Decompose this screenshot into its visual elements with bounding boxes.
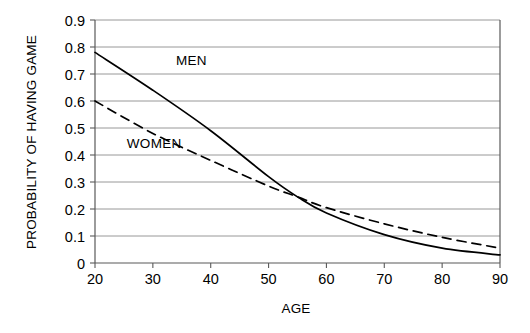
y-tick-label-0.9: 0.9	[65, 13, 85, 29]
x-tick-label-70: 70	[376, 271, 392, 287]
y-tick-label-0.5: 0.5	[65, 121, 85, 137]
y-tick-label-0.2: 0.2	[65, 202, 85, 218]
chart-figure: 2030405060708090 00.10.20.30.40.50.60.70…	[0, 0, 530, 333]
x-tick-label-30: 30	[145, 271, 161, 287]
y-tick-label-0.1: 0.1	[65, 229, 85, 245]
y-tick-label-0.6: 0.6	[65, 94, 85, 110]
series-label-women: WOMEN	[127, 136, 182, 151]
y-tick-label-0: 0	[77, 256, 85, 272]
probability-line-chart: 2030405060708090 00.10.20.30.40.50.60.70…	[0, 0, 530, 333]
x-tick-label-80: 80	[434, 271, 450, 287]
x-tick-label-60: 60	[318, 271, 334, 287]
y-axis-title: PROBABILITY OF HAVING GAME	[24, 35, 39, 249]
y-tick-label-0.7: 0.7	[65, 67, 85, 83]
x-tick-label-20: 20	[87, 271, 103, 287]
y-tick-label-0.8: 0.8	[65, 40, 85, 56]
x-tick-label-90: 90	[492, 271, 508, 287]
x-tick-label-50: 50	[261, 271, 277, 287]
series-label-men: MEN	[176, 53, 207, 68]
y-tick-label-0.3: 0.3	[65, 175, 85, 191]
y-tick-label-0.4: 0.4	[65, 148, 85, 164]
x-tick-label-40: 40	[203, 271, 219, 287]
x-axis-title: AGE	[281, 301, 310, 316]
